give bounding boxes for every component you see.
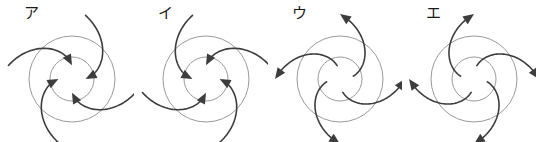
flow-arrow-4	[477, 54, 536, 74]
arrow-head-1	[462, 14, 474, 24]
flow-arrow-1	[208, 48, 268, 65]
inner-circle	[50, 57, 94, 101]
diagram-panel-e: エ	[402, 0, 536, 142]
spiral-diagram-i	[134, 0, 268, 142]
outer-circle	[431, 36, 517, 122]
spiral-diagram-u	[268, 0, 402, 142]
arrow-head-3	[474, 134, 486, 142]
outer-circle	[297, 36, 383, 122]
diagram-panel-u: ウ	[268, 0, 402, 142]
inner-circle	[452, 57, 496, 101]
flow-arrow-1	[449, 18, 469, 77]
figure-root: ア イ ウ エ	[0, 0, 537, 142]
spiral-diagram-e	[402, 0, 536, 142]
arrow-head-1	[340, 14, 352, 24]
inner-circle	[184, 57, 228, 101]
flow-arrow-3	[479, 82, 499, 141]
spiral-diagram-a	[0, 0, 134, 142]
diagram-panel-i: イ	[134, 0, 268, 142]
arrow-head-2	[275, 67, 285, 79]
inner-circle	[318, 57, 362, 101]
flow-arrow-1	[345, 18, 365, 77]
flow-arrow-2	[279, 54, 338, 74]
arrow-head-3	[328, 134, 340, 142]
flow-arrow-3	[74, 93, 134, 110]
arrow-head-2	[409, 79, 419, 91]
flow-arrow-2	[413, 84, 472, 104]
diagram-panel-a: ア	[0, 0, 134, 142]
flow-arrow-3	[315, 82, 335, 141]
flow-arrow-4	[343, 84, 402, 104]
